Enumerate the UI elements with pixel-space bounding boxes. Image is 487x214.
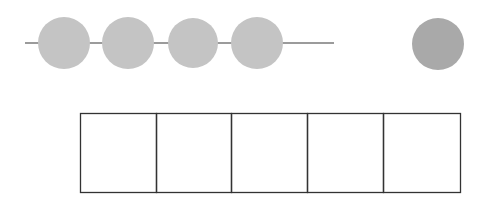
circle-4 [231,17,283,69]
box-4 [308,114,384,193]
box-5 [384,114,461,193]
circle-3 [168,18,218,68]
box-1 [81,114,157,193]
diagram-canvas [0,0,487,214]
circle-1 [38,17,90,69]
box-3 [232,114,308,193]
circle-2 [102,17,154,69]
box-row [81,114,461,193]
box-2 [157,114,232,193]
separate-circle [412,18,464,70]
number-line-group [25,17,334,69]
